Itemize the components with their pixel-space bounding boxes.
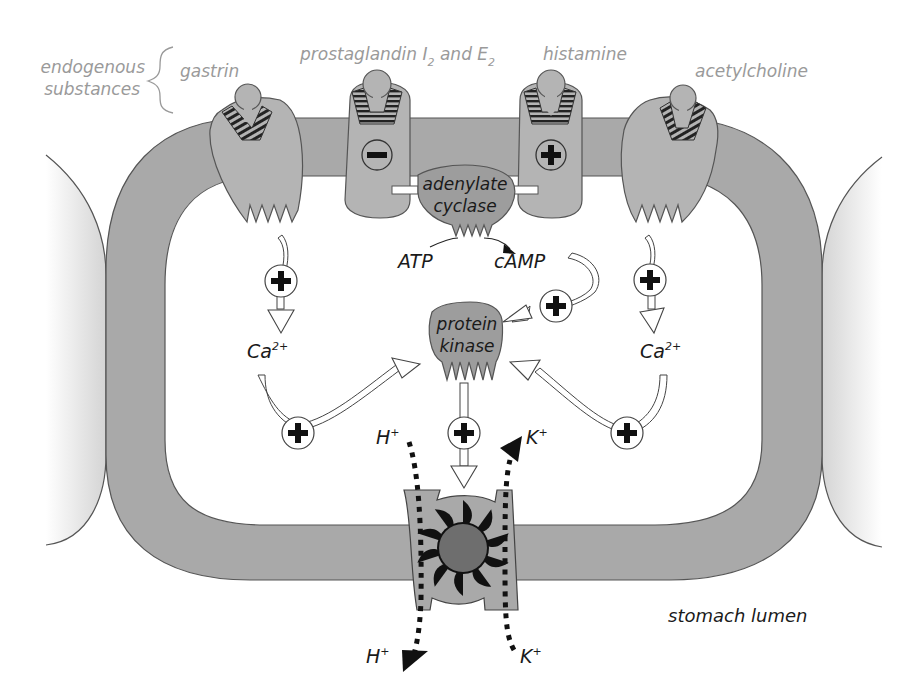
plus-symbol	[282, 417, 314, 449]
adenylate-cyclase-label-1: adenylate	[423, 174, 508, 194]
histamine-ligand	[537, 70, 565, 98]
kinase-to-pump-arrow	[448, 383, 480, 488]
h-out-label: H+	[366, 645, 390, 667]
plus-symbol	[448, 417, 480, 449]
gastrin-to-calcium-arrow	[265, 235, 297, 333]
h-in-label: H+	[376, 426, 400, 448]
curly-brace	[148, 47, 173, 113]
ligand-label-acetylcholine: acetylcholine	[695, 61, 808, 81]
calcium-left-label: Ca2+	[247, 340, 288, 362]
inhibition-symbol	[362, 140, 392, 170]
endogenous-label: endogenous	[41, 57, 146, 77]
calcium-right-label: Ca2+	[640, 340, 681, 362]
prostaglandin-ligand	[363, 70, 391, 98]
acetylcholine-to-calcium-arrow	[634, 235, 666, 333]
endogenous-substances-label: endogenous substances	[41, 47, 173, 113]
neighbor-cell-left	[46, 155, 106, 545]
stomach-lumen-label: stomach lumen	[668, 605, 807, 626]
substances-label: substances	[44, 79, 140, 99]
adenylate-cyclase-label-2: cyclase	[433, 196, 496, 216]
gastrin-ligand	[235, 84, 261, 110]
k-in-arrowhead-icon	[500, 436, 522, 462]
plus-symbol	[540, 290, 572, 322]
plus-symbol	[611, 417, 643, 449]
acetylcholine-receptor	[621, 85, 718, 222]
ligand-label-gastrin: gastrin	[180, 61, 239, 81]
protein-kinase-label-2: kinase	[439, 336, 494, 356]
prostaglandin-receptor	[345, 70, 410, 218]
protein-kinase-label-1: protein	[436, 314, 498, 334]
h-out-arrowhead-icon	[402, 650, 428, 672]
atp-to-camp-conversion: ATP cAMP	[396, 238, 546, 272]
diagram-canvas: endogenous substances gastrin prostaglan…	[0, 0, 912, 691]
k-out-label: K+	[520, 645, 542, 667]
ligand-label-histamine: histamine	[543, 44, 627, 64]
histamine-receptor	[518, 70, 582, 218]
plus-symbol	[265, 265, 297, 297]
camp-label: cAMP	[494, 250, 546, 272]
gastrin-receptor	[210, 84, 303, 222]
neighbor-cell-right	[822, 157, 882, 547]
ligand-label-prostaglandin: prostaglandin I2 and E2	[299, 44, 495, 69]
plus-symbol	[634, 264, 666, 296]
protein-kinase: protein kinase	[429, 302, 502, 380]
stimulation-symbol	[536, 140, 566, 170]
k-in-label: K+	[526, 426, 548, 448]
atp-label: ATP	[396, 250, 433, 272]
acetylcholine-ligand	[670, 85, 696, 111]
